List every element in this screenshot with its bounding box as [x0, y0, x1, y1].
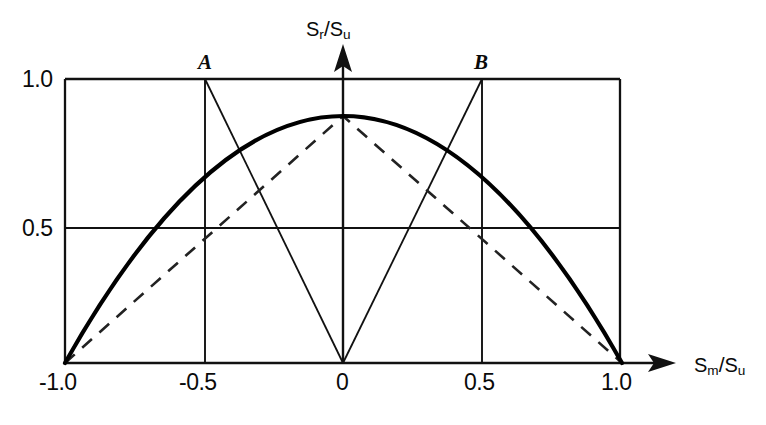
y-axis-title: Sr/Su: [306, 18, 351, 42]
y-axis-title-s1: S: [306, 18, 319, 40]
annotation-point-b: B: [474, 52, 488, 73]
x-tick-label--0.5: -0.5: [179, 371, 217, 394]
annotation-point-a: A: [198, 52, 212, 73]
x-axis-title-sub2: u: [738, 363, 746, 378]
x-tick-label-0: 0: [336, 371, 348, 394]
y-tick-label-0.5: 0.5: [22, 217, 52, 240]
axis-group: [334, 44, 676, 372]
x-axis-title: Sm/Su: [694, 354, 745, 378]
x-tick-label-0.5: 0.5: [464, 371, 494, 394]
x-tick-label-1.0: 1.0: [601, 371, 631, 394]
x-axis-title-sub1: m: [707, 363, 718, 378]
figure-root: Sr/Su Sm/Su 1.0 0.5 -1.0 -0.5 0 0.5 1.0 …: [0, 0, 766, 425]
y-tick-label-1.0: 1.0: [22, 68, 52, 91]
y-axis-title-sub2: u: [343, 27, 351, 42]
plot-canvas: [0, 0, 766, 425]
x-tick-label--1.0: -1.0: [39, 371, 77, 394]
y-axis-title-s2: S: [330, 18, 343, 40]
x-axis-title-s1: S: [694, 354, 707, 376]
x-axis-title-s2: S: [725, 354, 738, 376]
